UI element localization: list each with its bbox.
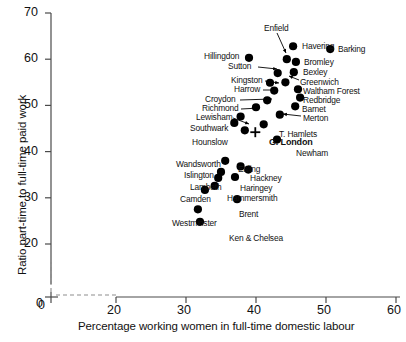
data-point-merton — [276, 111, 284, 119]
x-tick-label-60: 60 — [387, 303, 401, 317]
point-label-wandsworth: Wandsworth — [176, 160, 221, 169]
point-label-enfield: Enfield — [264, 24, 289, 33]
data-point-sutton — [274, 69, 282, 77]
point-label-sutton: Sutton — [228, 62, 251, 71]
scatter-plot-figure: 020304050600203040506070 EnfieldHavering… — [0, 0, 406, 342]
data-point-barnet — [291, 102, 299, 110]
data-point-lewisham — [237, 112, 245, 120]
data-point-westminster — [194, 205, 202, 213]
leader-arrowhead — [275, 81, 279, 84]
point-label-lewisham: Lewisham — [196, 113, 233, 122]
point-label-merton: Merton — [303, 114, 328, 123]
data-point-greenwich — [281, 78, 289, 86]
point-label-barking: Barking — [338, 45, 365, 54]
data-point-lambeth — [214, 174, 222, 182]
data-point-richmond — [252, 103, 260, 111]
point-label-camden: Camden — [180, 195, 211, 204]
x-tick-label-20: 20 — [107, 303, 121, 317]
point-label-haringey: Haringey — [240, 184, 272, 193]
point-label-islington: Islington — [184, 171, 214, 180]
data-point-enfield — [283, 55, 291, 63]
y-tick-label-0: 0 — [36, 296, 43, 310]
point-label-southwark: Southwark — [190, 124, 228, 133]
point-label-westminster: Westminster — [172, 219, 217, 228]
point-label-havering: Havering — [302, 42, 334, 51]
point-label-hackney: Hackney — [250, 174, 282, 183]
data-point-croydon — [263, 96, 271, 104]
point-label-hammersmith: Hammersmith — [227, 194, 277, 203]
x-tick-label-30: 30 — [177, 303, 191, 317]
point-label-bexley: Bexley — [303, 68, 327, 77]
point-label-lambeth: Lambeth — [190, 183, 222, 192]
point-label-hillingdon: Hillingdon — [204, 52, 239, 61]
y-axis-title: Ratio part-time to full-time paid work — [16, 95, 28, 275]
point-label-hounslow: Hounslow — [192, 138, 228, 147]
leader-arrowhead — [245, 121, 249, 124]
point-label-g-london: G. London — [269, 138, 313, 147]
point-label-brent: Brent — [239, 210, 258, 219]
point-label-ken-chelsea: Ken & Chelsea — [229, 234, 283, 243]
data-point-t-hamlets — [260, 120, 268, 128]
data-point-wandsworth — [221, 157, 229, 165]
x-tick-label-50: 50 — [317, 303, 331, 317]
data-point-g-london — [250, 127, 260, 137]
point-label-bromley: Bromley — [304, 58, 334, 67]
point-label-harrow: Harrow — [234, 85, 260, 94]
data-point-harrow — [270, 87, 278, 95]
point-label-newham: Newham — [296, 149, 328, 158]
data-point-bromley — [292, 58, 300, 66]
x-axis-title: Percentage working women in full-time do… — [78, 320, 355, 332]
data-point-havering — [289, 42, 297, 50]
x-tick-label-40: 40 — [247, 303, 261, 317]
y-tick-label-70: 70 — [24, 5, 38, 19]
data-point-hounslow — [241, 126, 249, 134]
data-point-haringey — [231, 173, 239, 181]
data-point-kingston — [266, 79, 274, 87]
data-point-bexley — [290, 68, 298, 76]
y-tick-label-60: 60 — [24, 51, 38, 65]
